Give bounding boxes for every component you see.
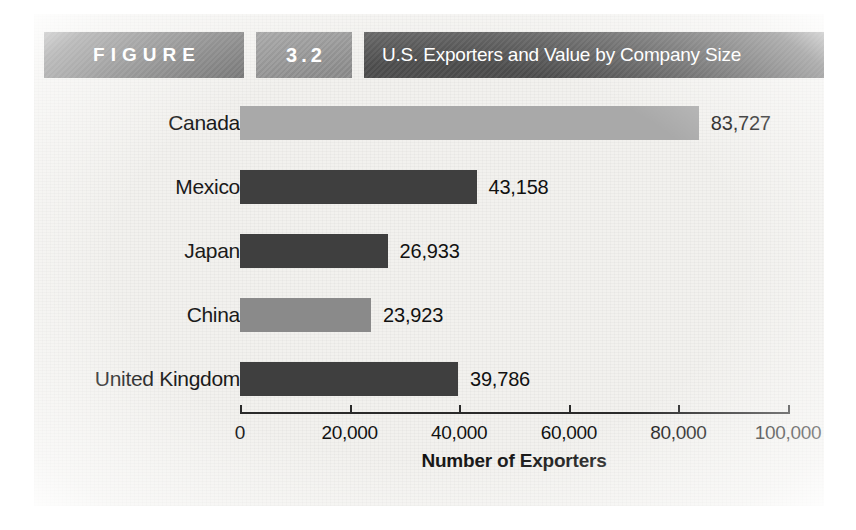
figure-title-box: U.S. Exporters and Value by Company Size [364, 32, 824, 78]
bar-category-label: China [0, 303, 240, 327]
x-axis-tick [240, 405, 242, 414]
bar [240, 234, 388, 268]
bar [240, 106, 699, 140]
bar-value-label: 23,923 [383, 304, 443, 327]
x-axis-tick-label: 20,000 [321, 422, 377, 444]
bar-category-label: Japan [0, 239, 240, 263]
bar [240, 170, 477, 204]
figure-number-box: 3.2 [256, 32, 352, 78]
bar-category-label: Mexico [0, 175, 240, 199]
bar-chart: Canada83,727Mexico43,158Japan26,933China… [34, 94, 824, 494]
x-axis-tick [569, 405, 571, 414]
bar-value-label: 26,933 [400, 240, 460, 263]
bar-category-label: United Kingdom [0, 367, 240, 391]
bar-value-label: 39,786 [470, 368, 530, 391]
figure-number-label: 3.2 [282, 44, 326, 67]
bar [240, 298, 371, 332]
figure-title-text: U.S. Exporters and Value by Company Size [382, 44, 741, 66]
bar [240, 362, 458, 396]
x-axis-title: Number of Exporters [240, 450, 788, 472]
bar-value-label: 83,727 [711, 112, 771, 135]
x-axis-tick [678, 405, 680, 414]
x-axis-tick-label: 80,000 [650, 422, 706, 444]
x-axis-tick [788, 405, 790, 414]
x-axis-tick-label: 0 [235, 422, 245, 444]
bar-value-label: 43,158 [489, 176, 549, 199]
x-axis-tick [350, 405, 352, 414]
x-axis-tick [459, 405, 461, 414]
x-axis-tick-label: 40,000 [431, 422, 487, 444]
x-axis: 020,00040,00060,00080,000100,000 [240, 412, 788, 414]
bar-category-label: Canada [0, 111, 240, 135]
figure-page: FIGURE 3.2 U.S. Exporters and Value by C… [0, 0, 856, 530]
figure-word-label: FIGURE [87, 44, 201, 66]
x-axis-tick-label: 60,000 [541, 422, 597, 444]
scanned-figure-plate: FIGURE 3.2 U.S. Exporters and Value by C… [34, 14, 824, 506]
figure-word-box: FIGURE [44, 32, 244, 78]
x-axis-tick-label: 100,000 [755, 422, 822, 444]
figure-header: FIGURE 3.2 U.S. Exporters and Value by C… [34, 32, 824, 78]
